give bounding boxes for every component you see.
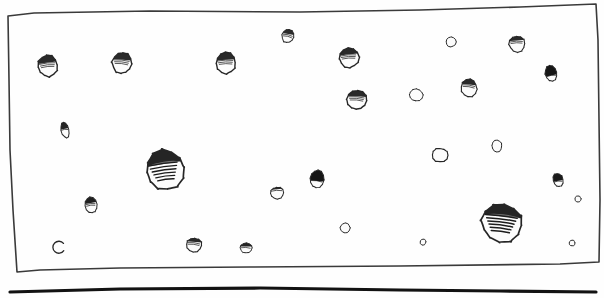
bubble-15 xyxy=(432,149,448,162)
sketch-canvas: Hand-drawn bubble distribution sketch Pe… xyxy=(0,0,604,298)
bubble-7 xyxy=(446,37,456,47)
sketch-drawing xyxy=(0,0,604,298)
bubble-21 xyxy=(420,239,426,245)
bubble-16 xyxy=(492,140,502,152)
bubble-18 xyxy=(575,196,581,202)
bubble-19 xyxy=(569,240,575,246)
